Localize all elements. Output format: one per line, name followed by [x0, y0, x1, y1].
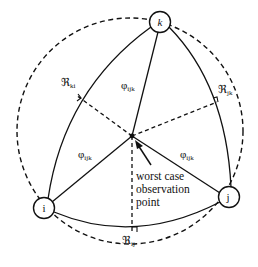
- label-r-ij: ℜij: [122, 234, 135, 248]
- node-k: k: [150, 12, 171, 33]
- perp-jk: [132, 102, 217, 136]
- observation-point-dot: [130, 134, 135, 139]
- node-i: i: [34, 198, 55, 219]
- node-j: j: [219, 187, 240, 208]
- diagram-canvas: k i j ℜki ℜjk ℜij φijk φijk φijk worst c…: [0, 0, 258, 267]
- perp-ki: [76, 95, 132, 136]
- label-phi-right: φijk: [180, 148, 194, 162]
- spoke-k: [132, 32, 158, 136]
- label-phi-top: φijk: [121, 79, 135, 93]
- annotation-line-1: worst case: [136, 170, 184, 182]
- spoke-i: [52, 136, 132, 202]
- annotation-line-2: observation: [136, 183, 190, 195]
- arc-k-j: [169, 27, 231, 187]
- right-angle-ij: [132, 227, 137, 232]
- label-r-ki: ℜki: [61, 76, 76, 90]
- label-r-jk: ℜjk: [218, 83, 233, 97]
- diagram-svg: k i j ℜki ℜjk ℜij φijk φijk φijk worst c…: [0, 0, 258, 267]
- annotation-line-3: point: [136, 196, 160, 209]
- annotation-arrowhead-icon: [135, 140, 143, 149]
- node-i-label: i: [42, 202, 45, 214]
- annotation-arrow-shaft: [138, 145, 151, 165]
- node-j-label: j: [225, 191, 229, 203]
- label-phi-left: φijk: [78, 148, 92, 162]
